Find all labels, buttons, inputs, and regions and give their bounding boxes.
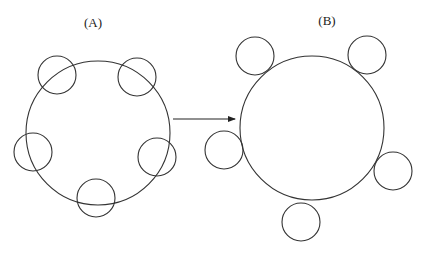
panel-a-small-circles	[14, 56, 176, 217]
panel-b-small-circle-3	[205, 131, 243, 169]
panel-b: (B)	[205, 13, 412, 241]
diagram-canvas: (A) (B)	[0, 0, 423, 257]
panel-a: (A)	[14, 15, 176, 217]
panel-b-small-circle-5	[282, 203, 320, 241]
panel-a-small-circle-5	[77, 179, 115, 217]
panel-a-small-circle-4	[138, 138, 176, 176]
panel-a-small-circle-3	[14, 133, 52, 171]
panel-a-label: (A)	[84, 15, 102, 30]
panel-b-small-circle-4	[374, 152, 412, 190]
panel-b-small-circles	[205, 36, 412, 241]
panel-b-small-circle-1	[236, 37, 274, 75]
panel-b-small-circle-2	[348, 36, 386, 74]
panel-a-small-circle-2	[118, 58, 156, 96]
panel-b-main-circle	[240, 56, 384, 200]
panel-a-small-circle-1	[38, 56, 76, 94]
panel-b-label: (B)	[318, 13, 335, 28]
panel-a-main-circle	[26, 61, 170, 205]
